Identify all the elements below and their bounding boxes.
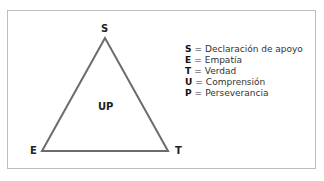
legend-item: E=Empatía (185, 55, 303, 66)
vertex-label-top: S (101, 23, 108, 34)
legend-item: T=Verdad (185, 66, 303, 77)
vertex-label-bottom-right: T (175, 145, 182, 156)
legend-item: S=Declaración de apoyo (185, 44, 303, 55)
legend-item: U=Comprensión (185, 77, 303, 88)
center-label: UP (98, 101, 113, 112)
vertex-label-bottom-left: E (30, 145, 37, 156)
legend-item: P=Perseverancia (185, 88, 303, 99)
legend: S=Declaración de apoyo E=Empatía T=Verda… (185, 44, 303, 99)
